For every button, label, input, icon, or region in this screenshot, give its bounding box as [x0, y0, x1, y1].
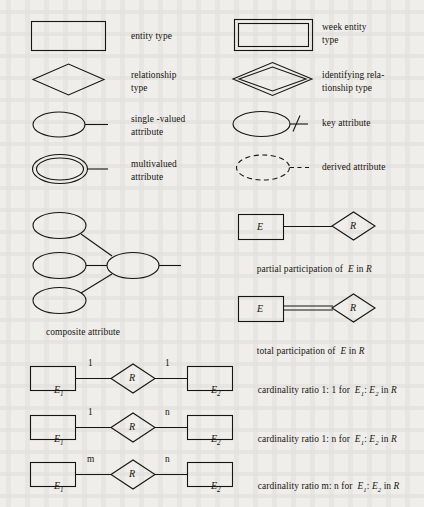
total-participation-caption-prefix: total participation of — [257, 346, 341, 356]
multivalued-attribute-label-line2: attribute — [131, 172, 163, 184]
identifying-relationship-inner-diamond — [239, 67, 306, 91]
cardinality-row-2-left-ratio: 1 — [88, 407, 93, 417]
single-valued-attribute-label-line1: single -valued — [131, 114, 185, 126]
caption-r: R — [394, 481, 400, 491]
cardinality-row-3-right-ratio: n — [165, 454, 170, 464]
cardinality-row-3-caption: cardinality ratio m: n for E1: E2 in R — [248, 469, 399, 507]
cardinality-row-2-relationship-symbol: R — [129, 421, 135, 432]
cardinality-row-2-entity1-symbol: E1 — [44, 422, 64, 458]
composite-attribute-label: composite attribute — [46, 327, 120, 339]
partial-participation-caption-prefix: partial participation of — [257, 264, 348, 274]
cardinality-row-1-left-ratio: 1 — [88, 358, 93, 368]
composite-attribute-component-ellipse-2 — [33, 253, 86, 279]
total-participation-caption-mid: in — [346, 346, 358, 356]
relationship-type-label-line2: type — [131, 83, 148, 95]
cardinality-row-1-caption: cardinality ratio 1: 1 for E1: E2 in R — [248, 373, 397, 411]
cardinality-row-1-right-ratio: 1 — [165, 358, 170, 368]
entity-type-label: entity type — [131, 31, 172, 43]
cardinality-row-2-right-ratio: n — [165, 407, 170, 417]
composite-attribute-component-ellipse-3 — [33, 288, 86, 314]
cardinality-row-2-caption: cardinality ratio 1: n for E1: E2 in R — [248, 422, 397, 460]
single-valued-attribute-ellipse — [33, 112, 85, 137]
relationship-type-label-line1: relationship — [131, 70, 176, 82]
single-valued-attribute-label-line2: attribute — [131, 127, 163, 139]
composite-attribute-link-1 — [81, 234, 112, 256]
key-attribute-label: key attribute — [322, 118, 370, 130]
key-attribute-ellipse — [233, 112, 290, 137]
total-participation-caption-relationship: R — [359, 346, 365, 356]
caption-r: R — [391, 385, 397, 395]
entity2-subscript: 2 — [217, 486, 221, 494]
total-participation-relationship-symbol: R — [350, 302, 356, 313]
er-notation-legend-page: entity type week entity type relationshi… — [0, 0, 424, 507]
total-participation-entity-symbol: E — [257, 303, 263, 314]
partial-participation-caption-relationship: R — [366, 264, 372, 274]
composite-attribute-parent-ellipse — [107, 253, 159, 279]
caption-r: R — [391, 434, 397, 444]
cardinality-row-1-entity1-symbol: E1 — [44, 373, 64, 409]
derived-attribute-dashed-ellipse — [237, 155, 290, 180]
cardinality-row-1-relationship-symbol: R — [129, 372, 135, 383]
entity1-subscript: 1 — [60, 439, 64, 447]
cardinality-row-3-relationship-symbol: R — [129, 468, 135, 479]
entity1-subscript: 1 — [60, 486, 64, 494]
caption-suffix: in — [379, 434, 391, 444]
weak-entity-type-label-line1: week entity — [322, 22, 367, 34]
multivalued-attribute-inner-ellipse — [37, 158, 84, 180]
cardinality-row-3-left-ratio: m — [87, 454, 94, 464]
relationship-type-diamond — [33, 64, 104, 95]
total-participation-caption: total participation of E in R — [247, 334, 364, 369]
composite-attribute-link-3 — [81, 274, 112, 293]
weak-entity-outer-rectangle — [235, 20, 313, 51]
entity1-subscript: 1 — [60, 390, 64, 398]
partial-participation-caption: partial participation of E in R — [247, 252, 372, 287]
cardinality-row-3-entity1-symbol: E1 — [44, 469, 64, 505]
partial-participation-entity-symbol: E — [257, 221, 263, 232]
weak-entity-inner-rectangle — [239, 24, 309, 47]
partial-participation-relationship-symbol: R — [350, 220, 356, 231]
caption-prefix: cardinality ratio 1: n for — [258, 434, 355, 444]
caption-suffix: in — [379, 385, 391, 395]
identifying-relationship-label-line1: identifying rela- — [322, 70, 384, 82]
entity-type-rectangle — [32, 22, 106, 51]
cardinality-row-3-entity2-symbol: E2 — [201, 469, 221, 505]
caption-suffix: in — [381, 481, 393, 491]
entity2-subscript: 2 — [217, 439, 221, 447]
caption-prefix: cardinality ratio 1: 1 for — [258, 385, 355, 395]
cardinality-row-1-entity2-symbol: E2 — [201, 373, 221, 409]
cardinality-row-2-entity2-symbol: E2 — [201, 422, 221, 458]
composite-attribute-component-ellipse-1 — [33, 213, 86, 239]
partial-participation-caption-mid: in — [354, 264, 366, 274]
identifying-relationship-label-line2: tionship type — [322, 83, 372, 95]
derived-attribute-label: derived attribute — [322, 162, 385, 174]
weak-entity-type-label-line2: type — [322, 35, 339, 47]
multivalued-attribute-label-line1: multivalued — [131, 159, 177, 171]
entity2-subscript: 2 — [217, 390, 221, 398]
multivalued-attribute-outer-ellipse — [33, 155, 88, 184]
caption-prefix: cardinality ratio m: n for — [258, 481, 358, 491]
